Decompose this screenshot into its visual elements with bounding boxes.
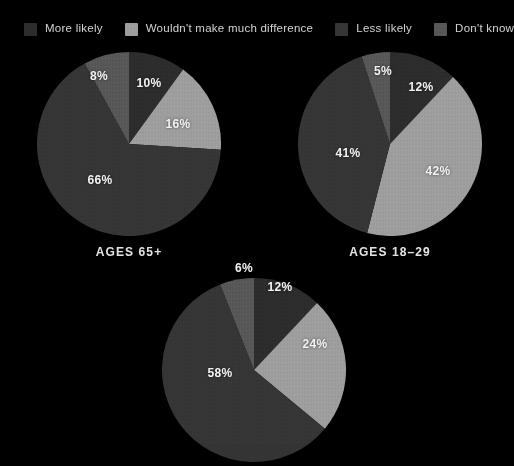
pie-chart-ages-18-29 (298, 52, 482, 236)
pie-slice-value-label: 42% (425, 164, 450, 178)
pie-svg (37, 52, 221, 236)
pie-chart-unlabeled-age-group (162, 278, 346, 462)
legend-swatch-icon (24, 23, 37, 36)
legend-swatch-icon (434, 23, 447, 36)
legend: More likelyWouldn't make much difference… (0, 18, 507, 40)
pie-slice-value-label: 12% (267, 280, 292, 294)
legend-item-label: Don't know (455, 23, 514, 35)
legend-swatch-icon (335, 23, 348, 36)
legend-swatch-icon (125, 23, 138, 36)
pie-slice-value-label: 6% (235, 261, 253, 275)
legend-item-label: More likely (45, 23, 103, 35)
pie-slice-value-label: 58% (207, 366, 232, 380)
legend-item-2[interactable]: Less likely (335, 23, 412, 36)
legend-item-3[interactable]: Don't know (434, 23, 514, 36)
pie-svg (162, 278, 346, 462)
pie-svg (298, 52, 482, 236)
legend-item-label: Less likely (356, 23, 412, 35)
pie-slice-value-label: 12% (408, 80, 433, 94)
legend-item-1[interactable]: Wouldn't make much difference (125, 23, 314, 36)
legend-item-0[interactable]: More likely (24, 23, 103, 36)
pie-slice-value-label: 10% (136, 76, 161, 90)
pie-chart-ages-65-plus (37, 52, 221, 236)
pie-slice-value-label: 24% (302, 337, 327, 351)
pie-slice-value-label: 5% (374, 64, 392, 78)
pie-slice-value-label: 8% (90, 69, 108, 83)
pie-slice-value-label: 66% (87, 173, 112, 187)
pie-slice-value-label: 16% (165, 117, 190, 131)
pie-chart-caption: AGES 18–29 (270, 245, 510, 259)
pie-slice-value-label: 41% (335, 146, 360, 160)
legend-item-label: Wouldn't make much difference (146, 23, 314, 35)
pie-chart-caption: AGES 65+ (9, 245, 249, 259)
